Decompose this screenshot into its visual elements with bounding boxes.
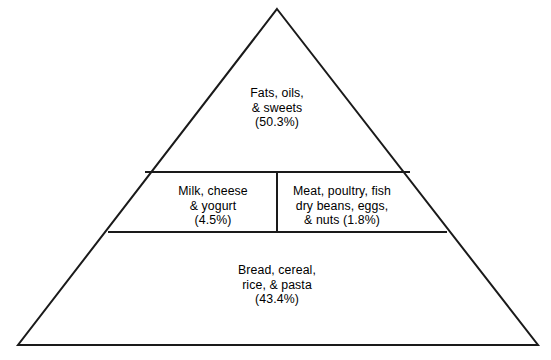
tier-label-line: Bread, cereal,: [238, 263, 316, 278]
tier-label-percent: & nuts (1.8%): [293, 213, 391, 228]
tier-label-milk-cheese-yogurt: Milk, cheese & yogurt (4.5%): [178, 184, 248, 228]
tier-label-bread-cereal-rice-pasta: Bread, cereal, rice, & pasta (43.4%): [238, 263, 316, 307]
tier-label-line: & sweets: [250, 101, 304, 116]
tier-label-line: Meat, poultry, fish: [293, 184, 391, 199]
tier-label-line: dry beans, eggs,: [293, 199, 391, 214]
tier-label-line: Fats, oils,: [250, 86, 304, 101]
tier-label-line: rice, & pasta: [238, 278, 316, 293]
tier-label-percent: (43.4%): [238, 292, 316, 307]
tier-label-line: & yogurt: [178, 199, 248, 214]
food-pyramid-diagram: Fats, oils, & sweets (50.3%) Milk, chees…: [0, 0, 551, 360]
tier-label-meat-poultry-fish: Meat, poultry, fish dry beans, eggs, & n…: [293, 184, 391, 228]
tier-label-percent: (4.5%): [178, 213, 248, 228]
tier-label-line: Milk, cheese: [178, 184, 248, 199]
tier-label-percent: (50.3%): [250, 115, 304, 130]
tier-label-fats-oils-sweets: Fats, oils, & sweets (50.3%): [250, 86, 304, 130]
